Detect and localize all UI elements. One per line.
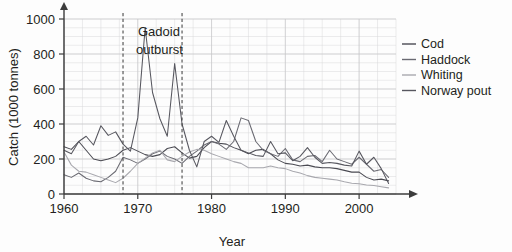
y-tick-label: 0: [48, 187, 55, 202]
y-tick-label: 200: [33, 152, 55, 167]
legend-label: Haddock: [421, 53, 471, 67]
legend: CodHaddockWhitingNorway pout: [402, 37, 492, 98]
chart-figure: 02004006008001000 19601970198019902000 C…: [0, 0, 512, 252]
series-line-whiting: [64, 149, 389, 188]
legend-label: Norway pout: [421, 84, 492, 98]
y-tick-label: 800: [33, 47, 55, 62]
x-axis-title: Year: [219, 234, 246, 249]
y-tick-label: 1000: [26, 12, 55, 27]
x-tick-label: 1980: [197, 201, 226, 216]
legend-item-cod[interactable]: Cod: [402, 37, 444, 51]
series-line-cod: [64, 142, 389, 181]
annotation-gadoid-outburst-line1: Gadoid: [138, 24, 180, 39]
x-tick-label: 2000: [345, 201, 374, 216]
y-tick-label: 600: [33, 82, 55, 97]
catch-by-year-line-chart: 02004006008001000 19601970198019902000 C…: [0, 0, 512, 252]
annotation-dashed-lines: [123, 13, 182, 194]
series-line-haddock: [64, 118, 389, 182]
legend-item-haddock[interactable]: Haddock: [402, 53, 471, 67]
series-lines: [64, 28, 389, 188]
x-tick-label: 1960: [50, 201, 79, 216]
axes: [59, 2, 418, 199]
minor-gridlines: [64, 19, 396, 194]
x-tick-label: 1990: [271, 201, 300, 216]
x-tick-labels: 19601970198019902000: [50, 201, 374, 216]
y-axis-title: Catch (1000 tonnes): [6, 48, 21, 166]
y-tick-labels: 02004006008001000: [26, 12, 55, 202]
annotation-gadoid-outburst-line2: outburst: [136, 42, 183, 57]
x-tick-label: 1970: [123, 201, 152, 216]
legend-label: Whiting: [421, 68, 463, 82]
y-tick-label: 400: [33, 117, 55, 132]
legend-item-norway-pout[interactable]: Norway pout: [402, 84, 492, 98]
legend-item-whiting[interactable]: Whiting: [402, 68, 463, 82]
legend-label: Cod: [421, 37, 444, 51]
